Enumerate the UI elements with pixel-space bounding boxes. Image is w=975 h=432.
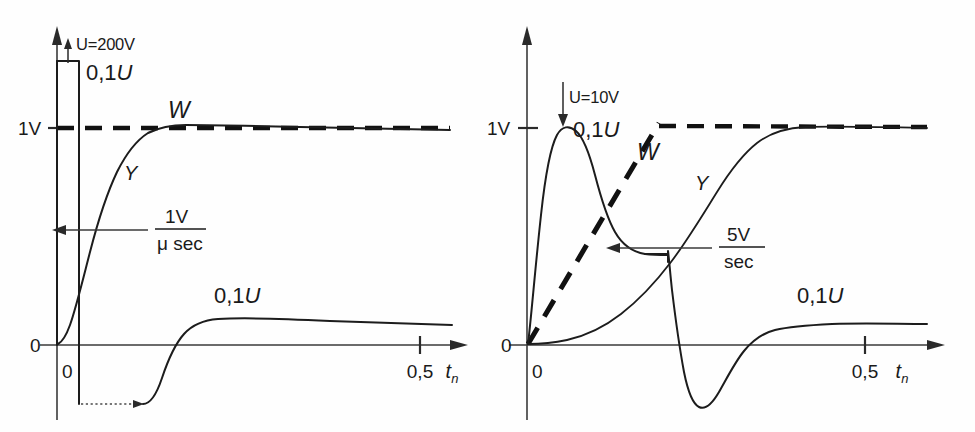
y-label-zero-left: 0 bbox=[30, 335, 41, 356]
bottom-leader-arrowhead-left bbox=[133, 400, 144, 408]
output-pulse-label-right: 0,1U bbox=[797, 283, 844, 308]
y-axis-arrowhead-right bbox=[522, 26, 532, 45]
output-pulse-curve-left bbox=[143, 318, 452, 404]
x-axis-arrowhead-left bbox=[450, 340, 468, 350]
slew-rate-numerator-left: 1V bbox=[165, 206, 189, 227]
amplitude-arrow-head-left bbox=[64, 38, 72, 49]
x-label-05-left: 0,5 bbox=[407, 361, 433, 382]
y-label-zero-right: 0 bbox=[501, 335, 512, 356]
chart-panel-left: U=200V 0,1U W Y 1V μ sec 0,1U 1V 0 0 0,5… bbox=[0, 0, 488, 432]
y-label-1v-left: 1V bbox=[18, 118, 42, 139]
x-label-05-right: 0,5 bbox=[852, 361, 878, 382]
output-curve-y-left bbox=[58, 125, 450, 344]
output-label-left: Y bbox=[124, 162, 139, 184]
amplitude-label-left: U=200V bbox=[76, 35, 135, 53]
chart-panel-right: U=10V 0,1U W Y 5V sec 0,1U 1V 0 0 0,5 tn bbox=[487, 0, 975, 432]
y-axis-arrowhead-left bbox=[52, 26, 62, 45]
x-label-origin-left: 0 bbox=[62, 361, 73, 382]
slew-rate-denominator-right: sec bbox=[724, 251, 754, 272]
x-label-origin-right: 0 bbox=[532, 361, 543, 382]
slew-rate-leader-arrowhead-left bbox=[52, 225, 66, 235]
x-axis-arrowhead-right bbox=[927, 340, 945, 350]
output-label-right: Y bbox=[695, 172, 710, 194]
x-axis-title-right: tn bbox=[896, 360, 909, 386]
output-pulse-label-left: 0,1U bbox=[214, 283, 261, 308]
amplitude-arrow-head-right bbox=[558, 114, 568, 127]
input-pulse-label-right: 0,1U bbox=[573, 117, 620, 142]
slew-rate-denominator-left: μ sec bbox=[157, 233, 203, 254]
slew-rate-leader-arrowhead-right bbox=[606, 243, 620, 253]
x-axis-title-left: tn bbox=[446, 360, 459, 386]
setpoint-label-left: W bbox=[168, 97, 192, 123]
input-pulse-label-left: 0,1U bbox=[86, 60, 133, 85]
slew-rate-numerator-right: 5V bbox=[727, 224, 751, 245]
setpoint-label-right: W bbox=[637, 139, 661, 165]
amplitude-label-right: U=10V bbox=[569, 88, 619, 106]
figure-container: U=200V 0,1U W Y 1V μ sec 0,1U 1V 0 0 0,5… bbox=[0, 0, 975, 432]
y-label-1v-right: 1V bbox=[487, 118, 511, 139]
